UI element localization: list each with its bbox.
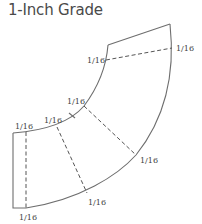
label-end-bottom: 1/16 [19, 213, 37, 222]
left-edge [13, 133, 26, 208]
label-top-inner: 1/16 [87, 56, 105, 65]
label-top-outer: 1/16 [176, 44, 194, 53]
label-mid-inner: 1/16 [67, 97, 85, 106]
fold-line-middle [84, 106, 136, 155]
fold-line-lower [57, 127, 87, 193]
label-end-top: 1/16 [15, 122, 33, 131]
top-edge [108, 24, 170, 45]
label-mid-outer: 1/16 [140, 156, 158, 165]
fold-line-top [106, 48, 172, 60]
label-low-outer: 1/16 [88, 198, 106, 207]
grade-pattern-diagram: 1/16 1/16 1/16 1/16 1/16 1/16 1/16 1/16 [0, 0, 202, 224]
label-low-inner: 1/16 [44, 116, 62, 125]
